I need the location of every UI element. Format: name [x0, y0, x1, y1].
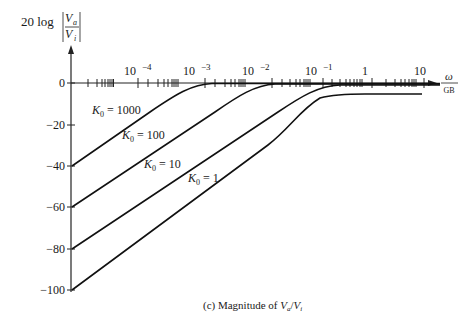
svg-text:−1: −1 [323, 62, 333, 72]
svg-text:10: 10 [305, 64, 317, 78]
svg-text:V: V [65, 27, 74, 41]
y-axis: 0 −20 −40 −60 −80 −100 [40, 45, 75, 297]
arrow-up-icon [68, 45, 74, 54]
svg-text:−100: −100 [40, 283, 65, 297]
svg-text:−2: −2 [260, 62, 270, 72]
svg-text:−20: −20 [46, 118, 65, 132]
y-axis-label: 20 log V a V i [21, 11, 80, 43]
svg-text:GB: GB [443, 86, 454, 95]
bode-magnitude-chart: 20 log V a V i 0 −20 −40 −60 −80 −100 [0, 0, 472, 320]
svg-text:−80: −80 [46, 242, 65, 256]
svg-text:ω: ω [445, 70, 453, 82]
x-axis: 10 −4 10 −3 10 −2 10 −1 1 10 ω GB [71, 62, 458, 95]
label-k0-1000: K0 = 1000 [91, 103, 141, 119]
svg-text:1: 1 [362, 64, 368, 78]
svg-text:20 log: 20 log [21, 14, 54, 29]
label-k0-1: K0 = 1 [187, 171, 219, 187]
svg-text:i: i [74, 34, 76, 43]
svg-text:−40: −40 [46, 159, 65, 173]
figure-caption: (c) Magnitude of Va/Vi [203, 299, 302, 313]
svg-text:0: 0 [59, 76, 65, 90]
x-axis-label: ω GB [441, 70, 458, 95]
svg-text:10: 10 [414, 64, 426, 78]
series-labels: K0 = 1000 K0 = 100 K0 = 10 K0 = 1 [91, 103, 219, 187]
svg-text:−60: −60 [46, 200, 65, 214]
svg-text:10: 10 [183, 64, 195, 78]
label-k0-10: K0 = 10 [143, 157, 181, 173]
label-k0-100: K0 = 100 [121, 128, 165, 144]
svg-text:10: 10 [242, 64, 254, 78]
svg-text:−3: −3 [201, 62, 211, 72]
svg-text:−4: −4 [142, 62, 152, 72]
svg-text:10: 10 [124, 64, 136, 78]
curve-k0-1 [72, 94, 422, 290]
svg-text:a: a [73, 18, 77, 27]
